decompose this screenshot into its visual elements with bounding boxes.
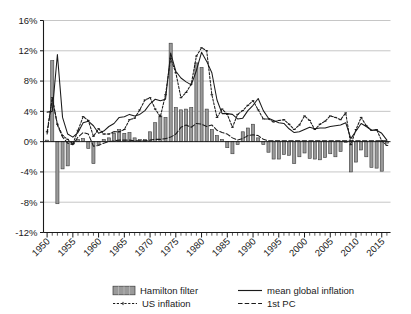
bar-1988 bbox=[241, 132, 244, 142]
ytick-label-0%: 0% bbox=[24, 136, 38, 147]
bar-2000 bbox=[303, 142, 306, 153]
bar-2007 bbox=[339, 142, 342, 152]
bar-2011 bbox=[360, 142, 363, 150]
bar-1952 bbox=[56, 142, 59, 204]
bar-1983 bbox=[215, 136, 218, 142]
bar-1991 bbox=[257, 138, 260, 142]
bar-2001 bbox=[308, 142, 311, 159]
bar-1963 bbox=[112, 133, 115, 141]
bar-2012 bbox=[365, 142, 368, 157]
bar-2013 bbox=[370, 142, 373, 168]
bar-1982 bbox=[210, 130, 213, 142]
legend-label-us-inflation: US inflation bbox=[142, 298, 191, 309]
bar-1986 bbox=[231, 142, 234, 154]
legend-label-hamilton-filter: Hamilton filter bbox=[140, 285, 198, 296]
bar-1997 bbox=[288, 142, 291, 156]
bar-1953 bbox=[61, 142, 64, 169]
ytick-label-4%: 4% bbox=[24, 106, 38, 117]
ytick-label-8%: 8% bbox=[24, 75, 38, 86]
bar-2005 bbox=[329, 142, 332, 154]
bar-1994 bbox=[272, 142, 275, 159]
bar-1985 bbox=[226, 142, 229, 148]
ytick-label--12%: -12% bbox=[15, 227, 38, 238]
bar-2009 bbox=[349, 142, 352, 172]
bar-1978 bbox=[190, 108, 193, 142]
bar-2003 bbox=[318, 142, 321, 160]
bar-2010 bbox=[354, 142, 357, 162]
bar-2004 bbox=[324, 142, 327, 158]
bar-1993 bbox=[267, 142, 270, 153]
bar-2006 bbox=[334, 142, 337, 157]
bar-1971 bbox=[154, 123, 157, 142]
bar-2002 bbox=[313, 142, 316, 159]
bar-1981 bbox=[205, 109, 208, 142]
bar-1995 bbox=[277, 142, 280, 159]
bar-2014 bbox=[375, 142, 378, 169]
inflation-chart: 16%12%8%4%0%-4%-8%-12% 19501955196019651… bbox=[0, 0, 411, 314]
legend-label-mean-global-inflation: mean global inflation bbox=[267, 285, 354, 296]
bar-1990 bbox=[251, 124, 254, 141]
ytick-label--4%: -4% bbox=[21, 166, 38, 177]
ytick-label-12%: 12% bbox=[18, 45, 38, 56]
bar-1989 bbox=[246, 128, 249, 142]
chart-svg: 16%12%8%4%0%-4%-8%-12% 19501955196019651… bbox=[0, 0, 411, 314]
bar-2015 bbox=[380, 142, 383, 172]
bar-1954 bbox=[66, 142, 69, 166]
bar-1975 bbox=[174, 108, 177, 142]
ytick-label-16%: 16% bbox=[18, 15, 38, 26]
bar-1958 bbox=[87, 142, 90, 149]
bar-1996 bbox=[282, 142, 285, 155]
bar-1998 bbox=[293, 142, 296, 164]
bar-1976 bbox=[179, 110, 182, 142]
ytick-label--8%: -8% bbox=[21, 197, 38, 208]
legend-label-1st-pc: 1st PC bbox=[267, 298, 296, 309]
bar-1999 bbox=[298, 142, 301, 157]
bar-1972 bbox=[159, 116, 162, 142]
bar-1980 bbox=[200, 67, 203, 141]
